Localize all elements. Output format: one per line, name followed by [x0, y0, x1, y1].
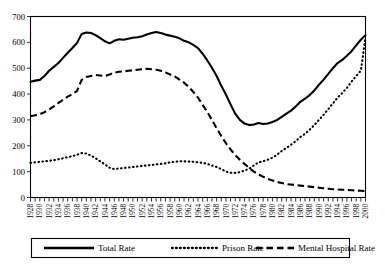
x-axis-tick-label: 1930	[36, 204, 44, 219]
x-axis-tick-label: 1942	[92, 204, 100, 219]
x-axis-tick-label: 1968	[213, 204, 221, 219]
x-axis-tick-labels: 1928193019321934193619381940194219441946…	[27, 204, 370, 219]
y-axis-tick-label: 700	[12, 12, 25, 22]
x-axis-tick-label: 1928	[27, 204, 35, 219]
y-axis-tick-label: 300	[12, 115, 25, 125]
x-axis-tick-label: 1960	[176, 204, 184, 219]
x-axis-tick-label: 1974	[241, 204, 249, 219]
y-axis-tick-label: 100	[12, 167, 25, 177]
x-axis-tick-label: 1940	[83, 204, 91, 219]
x-axis-tick-label: 1954	[148, 204, 156, 219]
x-axis-tick-label: 1982	[278, 204, 286, 219]
x-axis-tick-label: 1978	[260, 204, 268, 219]
x-axis-tick-label: 1970	[223, 204, 231, 219]
x-axis-tick-label: 1934	[55, 204, 63, 219]
y-axis-tick-label: 500	[12, 63, 25, 73]
x-axis-tick-label: 1936	[64, 204, 72, 219]
x-axis-tick-label: 1966	[204, 204, 212, 219]
legend-label: Mental Hospital Rate	[298, 243, 375, 253]
x-axis-tick-label: 1994	[334, 204, 342, 219]
x-axis-tick-label: 1972	[232, 204, 240, 219]
x-axis-tick-label: 1984	[288, 204, 296, 219]
x-axis-tick-label: 1980	[269, 204, 277, 219]
y-axis-tick-label: 0	[21, 193, 25, 203]
plot-area-border	[31, 17, 366, 198]
y-axis-tick-label: 400	[12, 89, 25, 99]
legend-label: Total Rate	[98, 243, 135, 253]
x-axis-tick-label: 1932	[46, 204, 54, 219]
x-axis-tick-label: 1956	[157, 204, 165, 219]
x-axis-tick-label: 1986	[297, 204, 305, 219]
line-chart: 0100200300400500600700 19281930193219341…	[0, 0, 385, 264]
x-axis-tick-label: 1988	[306, 204, 314, 219]
x-axis-tick-label: 1962	[185, 204, 193, 219]
y-axis-tick-label: 600	[12, 37, 25, 47]
y-axis-tick-label: 200	[12, 141, 25, 151]
x-axis-tick-label: 1938	[74, 204, 82, 219]
x-axis-tick-label: 1992	[325, 204, 333, 219]
x-axis-tick-label: 1950	[129, 204, 137, 219]
x-axis-tick-label: 1996	[343, 204, 351, 219]
x-axis-tick-label: 1998	[353, 204, 361, 219]
x-axis-tick-label: 2000	[362, 204, 370, 219]
x-axis-tick-label: 1944	[102, 204, 110, 219]
x-axis-tick-label: 1990	[316, 204, 324, 219]
x-axis-tick-label: 1948	[120, 204, 128, 219]
x-axis-tick-label: 1976	[250, 204, 258, 219]
chart-legend: Total RatePrison RateMental Hospital Rat…	[32, 239, 375, 258]
x-axis-tick-label: 1958	[167, 204, 175, 219]
x-axis-tick-label: 1952	[139, 204, 147, 219]
chart-container: 0100200300400500600700 19281930193219341…	[0, 0, 385, 264]
x-axis-tick-label: 1946	[111, 204, 119, 219]
x-axis-tick-label: 1964	[195, 204, 203, 219]
